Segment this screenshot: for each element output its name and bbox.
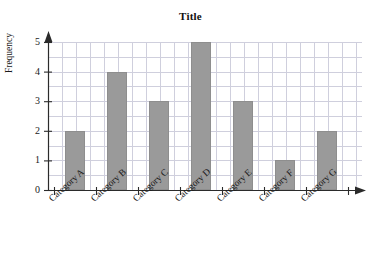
y-tick-label: 2 (26, 126, 40, 136)
y-axis-title: Frequency (4, 13, 14, 93)
y-tick-label: 5 (26, 37, 40, 47)
y-tick-label: 0 (26, 185, 40, 195)
bar (191, 42, 211, 190)
y-axis-arrow-icon (45, 31, 53, 42)
y-tick-label: 1 (26, 155, 40, 165)
y-tick-label: 4 (26, 67, 40, 77)
bar-chart: Title 012345 Frequency Category ACategor… (0, 0, 381, 263)
y-tick-label: 3 (26, 96, 40, 106)
chart-title: Title (0, 10, 381, 22)
